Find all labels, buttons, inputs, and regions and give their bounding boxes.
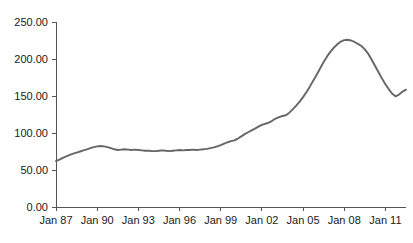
y-tick-label: 50.00 (20, 164, 48, 176)
data-series-line (56, 40, 406, 161)
x-tick-label: Jan 93 (122, 214, 155, 226)
x-tick-label: Jan 90 (81, 214, 114, 226)
x-tick-label: Jan 99 (204, 214, 237, 226)
x-tick-label: Jan 96 (163, 214, 196, 226)
x-tick-label: Jan 05 (287, 214, 320, 226)
y-axis-ticks: 0.0050.00100.00150.00200.00250.00 (14, 16, 56, 213)
chart-container: 0.0050.00100.00150.00200.00250.00 Jan 87… (0, 0, 413, 243)
x-tick-label: Jan 87 (39, 214, 72, 226)
y-tick-label: 100.00 (14, 127, 48, 139)
y-tick-label: 150.00 (14, 90, 48, 102)
x-axis-ticks: Jan 87Jan 90Jan 93Jan 96Jan 99Jan 02Jan … (39, 207, 401, 226)
y-tick-label: 250.00 (14, 16, 48, 28)
x-tick-label: Jan 11 (369, 214, 401, 226)
y-tick-label: 0.00 (27, 201, 48, 213)
line-chart: 0.0050.00100.00150.00200.00250.00 Jan 87… (0, 0, 413, 243)
x-tick-label: Jan 08 (328, 214, 361, 226)
y-tick-label: 200.00 (14, 53, 48, 65)
x-tick-label: Jan 02 (245, 214, 278, 226)
